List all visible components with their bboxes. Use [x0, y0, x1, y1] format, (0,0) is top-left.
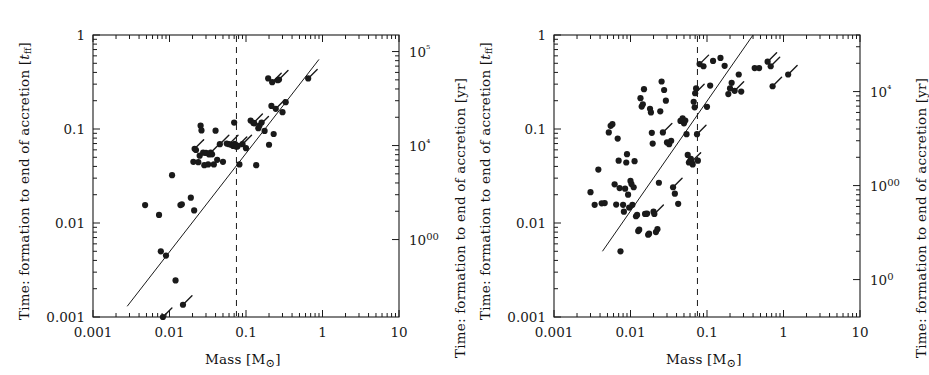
data-point	[625, 192, 631, 198]
x-tick-label: 1	[779, 324, 788, 340]
fit-line	[602, 35, 753, 251]
limit-tail-icon	[164, 308, 172, 316]
data-point	[180, 302, 186, 308]
plot-right: 0.0010.010.11100.0010.010.11100100010⁴	[461, 0, 923, 375]
data-point	[158, 248, 164, 254]
data-point	[142, 202, 148, 208]
x-tick-label: 0.1	[696, 324, 717, 340]
x-tick-label: 0.01	[154, 324, 184, 340]
data-point	[738, 88, 744, 94]
data-point	[609, 121, 615, 127]
data-point	[670, 184, 676, 190]
data-point	[648, 109, 654, 115]
y-tick-label: 0.001	[507, 309, 546, 325]
solar-symbol-icon: ⊙	[266, 356, 276, 370]
y-tick-label: 0.01	[516, 215, 546, 231]
y-tick-label: 0.1	[64, 121, 85, 137]
xlabel-text: Mass [M	[666, 351, 727, 367]
x-tick-label: 10	[390, 324, 407, 340]
y-tick-label: 0.01	[55, 215, 85, 231]
data-point	[615, 136, 621, 142]
data-point	[271, 131, 277, 137]
data-point	[769, 83, 775, 89]
data-point	[156, 212, 162, 218]
data-point	[656, 180, 662, 186]
y2-tick-label: 10⁵	[409, 43, 430, 60]
data-point	[640, 101, 646, 107]
data-point	[305, 75, 311, 81]
y2label-text: Time: formation to end of accretion [yr]	[913, 78, 929, 358]
data-point	[253, 162, 259, 168]
data-point	[704, 104, 710, 110]
xlabel-bracket: ]	[736, 351, 741, 367]
data-point	[209, 151, 215, 157]
limit-tail-icon	[675, 178, 683, 186]
data-point	[261, 128, 267, 134]
data-point	[279, 109, 285, 115]
data-point	[768, 63, 774, 69]
x-tick-label: 0.1	[235, 324, 256, 340]
data-point	[694, 131, 700, 137]
data-point	[283, 99, 289, 105]
ylabel-subscript: ff	[484, 48, 494, 55]
data-point	[259, 119, 265, 125]
data-point	[659, 78, 665, 84]
data-point	[595, 166, 601, 172]
data-point-group	[587, 53, 797, 255]
data-point	[637, 95, 643, 101]
data-point	[644, 210, 650, 216]
data-point	[269, 79, 275, 85]
x-tick-label: 10	[851, 324, 868, 340]
solar-symbol-icon: ⊙	[727, 356, 737, 370]
data-point	[193, 147, 199, 153]
data-point	[736, 71, 742, 77]
data-point	[660, 129, 666, 135]
data-point	[693, 85, 699, 91]
data-point	[650, 140, 656, 146]
data-point	[231, 119, 237, 125]
data-point	[682, 117, 688, 123]
data-point	[198, 127, 204, 133]
y-tick-label: 1	[537, 27, 546, 43]
limit-tail-icon	[664, 123, 672, 131]
x-tick-label: 0.001	[535, 324, 574, 340]
limit-tail-icon	[772, 57, 780, 65]
xlabel-text: Mass [M	[205, 351, 266, 367]
data-point	[188, 195, 194, 201]
y2-tick-label: 10⁴	[409, 137, 430, 154]
data-point	[616, 185, 622, 191]
data-point	[622, 186, 628, 192]
data-point	[205, 161, 211, 167]
data-point	[623, 159, 629, 165]
data-point	[163, 252, 169, 258]
data-point	[273, 106, 279, 112]
data-point	[634, 212, 640, 218]
data-point	[629, 202, 635, 208]
limit-tail-icon	[736, 82, 744, 90]
data-point	[592, 202, 598, 208]
x-axis-label-left-panel: Mass [M⊙]	[205, 351, 281, 370]
fit-line	[127, 59, 319, 306]
data-point	[236, 161, 242, 167]
y-axis-label-left-panel-left: Time: formation to end of accretion [tff…	[16, 42, 33, 320]
data-point	[692, 104, 698, 110]
limit-tail-icon	[656, 205, 664, 213]
data-point	[276, 76, 282, 82]
data-point	[191, 207, 197, 213]
data-point	[217, 141, 223, 147]
data-point	[729, 80, 735, 86]
data-point	[649, 130, 655, 136]
limit-tail-icon	[790, 66, 798, 74]
data-point	[179, 201, 185, 207]
panel-left: 0.0010.010.11100.0010.010.11100010⁴10⁵ T…	[0, 0, 461, 375]
ylabel-text: Time: formation to end of accretion [	[16, 60, 32, 320]
limit-tail-icon	[701, 55, 709, 63]
y-axis-label-right-panel-left: Time: formation to end of accretion [tff…	[477, 42, 494, 320]
y-tick-label: 1	[76, 27, 85, 43]
limit-tail-icon	[769, 53, 777, 61]
data-point	[785, 71, 791, 77]
data-point	[195, 159, 201, 165]
data-point	[613, 201, 619, 207]
data-point	[266, 142, 272, 148]
data-point	[631, 184, 637, 190]
